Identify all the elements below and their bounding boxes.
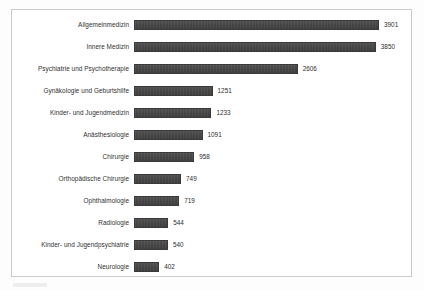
bar-value-label: 749 <box>186 174 197 184</box>
bar-value-label: 540 <box>173 240 184 250</box>
bar-container: 958 <box>134 146 210 168</box>
category-label: Allgemeinmedizin <box>78 14 129 36</box>
bar <box>134 42 376 52</box>
bar-row: Allgemeinmedizin3901 <box>12 14 411 36</box>
bar-container: 1091 <box>134 124 222 146</box>
bar-value-label: 544 <box>173 218 184 228</box>
bar <box>134 64 298 74</box>
category-label: Innere Medizin <box>86 36 129 58</box>
bar <box>134 240 168 250</box>
bar <box>134 86 213 96</box>
bar <box>134 108 211 118</box>
bar-row: Neurologie402 <box>12 256 411 278</box>
bar-value-label: 3901 <box>384 20 398 30</box>
bar <box>134 174 181 184</box>
category-label: Neurologie <box>98 256 129 278</box>
category-label: Anästhesiologie <box>83 124 129 146</box>
bar <box>134 20 379 30</box>
bar-container: 749 <box>134 168 197 190</box>
bar-value-label: 719 <box>184 196 195 206</box>
bar-container: 719 <box>134 190 195 212</box>
category-label: Psychiatrie und Psychotherapie <box>38 58 129 80</box>
bar-value-label: 958 <box>199 152 210 162</box>
category-label: Radiologie <box>98 212 129 234</box>
bar-container: 3850 <box>134 36 395 58</box>
bar-container: 402 <box>134 256 175 278</box>
bar-value-label: 2606 <box>303 64 317 74</box>
scan-artifact <box>13 283 47 287</box>
bar <box>134 130 203 140</box>
category-label: Kinder- und Jugendpsychiatrie <box>41 234 129 256</box>
bar-container: 540 <box>134 234 184 256</box>
bar <box>134 152 194 162</box>
bar-row: Kinder- und Jugendmedizin1233 <box>12 102 411 124</box>
bar-container: 3901 <box>134 14 398 36</box>
bar-row: Orthopädische Chirurgie749 <box>12 168 411 190</box>
bar-value-label: 402 <box>164 262 175 272</box>
category-label: Gynäkologie und Geburtshilfe <box>43 80 129 102</box>
bar-container: 1251 <box>134 80 232 102</box>
bar-value-label: 1233 <box>216 108 230 118</box>
category-label: Kinder- und Jugendmedizin <box>50 102 129 124</box>
bar-container: 2606 <box>134 58 317 80</box>
bar-value-label: 3850 <box>381 42 395 52</box>
bar-container: 1233 <box>134 102 231 124</box>
bar-row: Kinder- und Jugendpsychiatrie540 <box>12 234 411 256</box>
category-label: Ophthalmologie <box>84 190 129 212</box>
bar <box>134 262 159 272</box>
bar-container: 544 <box>134 212 184 234</box>
bar-row: Radiologie544 <box>12 212 411 234</box>
bar-row: Anästhesiologie1091 <box>12 124 411 146</box>
page-background: Allgemeinmedizin3901Innere Medizin3850Ps… <box>0 0 424 290</box>
bar-row: Chirurgie958 <box>12 146 411 168</box>
bar-value-label: 1091 <box>208 130 222 140</box>
bar <box>134 196 179 206</box>
category-label: Orthopädische Chirurgie <box>59 168 129 190</box>
bar-row: Gynäkologie und Geburtshilfe1251 <box>12 80 411 102</box>
bar-chart-plot-area: Allgemeinmedizin3901Innere Medizin3850Ps… <box>12 10 411 276</box>
chart-frame: Allgemeinmedizin3901Innere Medizin3850Ps… <box>11 9 412 277</box>
bar <box>134 218 168 228</box>
category-label: Chirurgie <box>103 146 129 168</box>
bar-row: Innere Medizin3850 <box>12 36 411 58</box>
bar-row: Psychiatrie und Psychotherapie2606 <box>12 58 411 80</box>
bar-value-label: 1251 <box>218 86 232 96</box>
bar-row: Ophthalmologie719 <box>12 190 411 212</box>
